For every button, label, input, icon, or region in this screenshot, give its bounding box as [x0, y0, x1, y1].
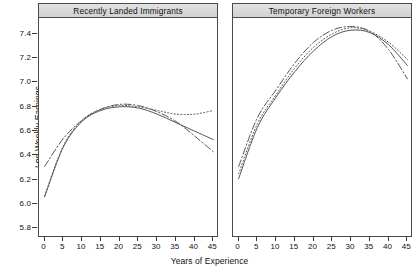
x-tick-mark — [137, 237, 138, 241]
x-tick-mark — [369, 237, 370, 241]
x-tick-mark — [156, 237, 157, 241]
panel-temporary-foreign-workers: Temporary Foreign Workers 05101520253035… — [232, 3, 412, 237]
x-tick-label: 25 — [327, 242, 336, 251]
x-tick-mark — [275, 237, 276, 241]
x-axis-left: 051015202530354045 — [38, 237, 218, 257]
x-tick-label: 15 — [95, 242, 104, 251]
y-tick-label: 7.0 — [5, 77, 31, 86]
line-series-dotted — [239, 28, 408, 174]
y-tick-label: 7.2 — [5, 52, 31, 61]
x-tick-label: 20 — [308, 242, 317, 251]
y-tick-label: 6.8 — [5, 101, 31, 110]
x-tick-mark — [44, 237, 45, 241]
x-tick-label: 0 — [235, 242, 240, 251]
x-tick-mark — [212, 237, 213, 241]
x-tick-label: 30 — [152, 242, 161, 251]
x-tick-label: 30 — [346, 242, 355, 251]
x-axis-title: Years of Experience — [0, 256, 419, 266]
x-tick-label: 10 — [271, 242, 280, 251]
x-tick-label: 35 — [364, 242, 373, 251]
x-tick-label: 35 — [170, 242, 179, 251]
y-tick-label: 7.4 — [5, 28, 31, 37]
x-tick-label: 20 — [114, 242, 123, 251]
line-series-solid — [45, 107, 214, 197]
y-tick-label: 6.6 — [5, 125, 31, 134]
x-tick-mark — [62, 237, 63, 241]
plot-area-right — [232, 18, 412, 237]
panel-recently-landed-immigrants: Recently Landed Immigrants 0510152025303… — [38, 3, 218, 237]
line-series-solid — [239, 30, 408, 179]
x-tick-mark — [331, 237, 332, 241]
y-tick-label: 5.8 — [5, 223, 31, 232]
panel-title-strip-left: Recently Landed Immigrants — [38, 3, 218, 18]
y-tick-mark — [32, 106, 37, 107]
y-tick-label: 6.2 — [5, 174, 31, 183]
y-axis-tick-labels: 7.47.27.06.86.66.46.26.05.8 — [0, 0, 38, 273]
series-group — [233, 18, 412, 237]
y-tick-mark — [32, 130, 37, 131]
x-tick-label: 5 — [254, 242, 259, 251]
x-tick-label: 10 — [77, 242, 86, 251]
x-axis-right: 051015202530354045 — [232, 237, 412, 257]
panel-title-strip-right: Temporary Foreign Workers — [232, 3, 412, 18]
x-tick-mark — [100, 237, 101, 241]
y-tick-mark — [32, 227, 37, 228]
x-tick-mark — [388, 237, 389, 241]
x-tick-label: 45 — [402, 242, 411, 251]
x-tick-mark — [406, 237, 407, 241]
x-tick-mark — [175, 237, 176, 241]
y-tick-mark — [32, 57, 37, 58]
x-tick-label: 45 — [208, 242, 217, 251]
plot-area-left — [38, 18, 218, 237]
x-tick-label: 0 — [41, 242, 46, 251]
y-tick-label: 6.4 — [5, 150, 31, 159]
x-tick-mark — [194, 237, 195, 241]
x-tick-label: 5 — [60, 242, 65, 251]
y-tick-label: 6.0 — [5, 198, 31, 207]
x-tick-mark — [350, 237, 351, 241]
line-series-dashdot — [239, 26, 408, 166]
x-tick-mark — [81, 237, 82, 241]
chart-figure: Log Weekly Earnings Years of Experience … — [0, 0, 419, 273]
series-group — [39, 18, 218, 237]
y-tick-mark — [32, 81, 37, 82]
x-tick-label: 15 — [289, 242, 298, 251]
x-tick-mark — [119, 237, 120, 241]
y-tick-mark — [32, 179, 37, 180]
y-tick-mark — [32, 154, 37, 155]
x-tick-label: 25 — [133, 242, 142, 251]
x-tick-mark — [294, 237, 295, 241]
x-tick-mark — [238, 237, 239, 241]
x-tick-label: 40 — [383, 242, 392, 251]
x-tick-label: 40 — [189, 242, 198, 251]
x-tick-mark — [313, 237, 314, 241]
y-tick-mark — [32, 203, 37, 204]
x-tick-mark — [256, 237, 257, 241]
line-series-dotted — [45, 105, 214, 195]
y-tick-mark — [32, 33, 37, 34]
